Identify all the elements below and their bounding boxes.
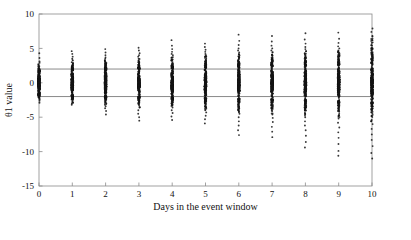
- data-point: [372, 28, 374, 30]
- data-point: [337, 102, 339, 104]
- data-point: [72, 77, 74, 79]
- data-point: [205, 55, 207, 57]
- data-point: [370, 120, 372, 122]
- data-point: [337, 107, 339, 109]
- data-point: [305, 129, 307, 131]
- data-point: [139, 106, 141, 108]
- data-point: [238, 98, 240, 100]
- data-point: [304, 39, 306, 41]
- data-point: [205, 111, 207, 113]
- data-point: [272, 117, 274, 119]
- data-point: [304, 58, 306, 60]
- data-point: [171, 45, 173, 47]
- data-point: [304, 116, 306, 118]
- data-point: [137, 113, 139, 115]
- data-point: [305, 95, 307, 97]
- data-point: [204, 46, 206, 48]
- data-point: [204, 109, 206, 111]
- scatter-column: [304, 32, 308, 148]
- data-point: [337, 122, 339, 124]
- data-point: [105, 80, 107, 82]
- data-point: [304, 46, 306, 48]
- data-point: [370, 31, 372, 33]
- x-tick-label: 9: [336, 189, 341, 199]
- x-tick-label: 6: [237, 189, 242, 199]
- data-point: [171, 82, 173, 84]
- data-point: [138, 87, 140, 89]
- data-point: [271, 74, 273, 76]
- data-point: [338, 82, 340, 84]
- scatter-column: [170, 39, 174, 121]
- data-point: [338, 143, 340, 145]
- data-point: [371, 103, 373, 105]
- data-point: [337, 74, 339, 76]
- data-point: [339, 61, 341, 63]
- data-point: [271, 65, 273, 67]
- data-point: [205, 71, 207, 73]
- data-point: [271, 136, 273, 138]
- data-point: [238, 34, 240, 36]
- data-point: [137, 56, 139, 58]
- y-tick-label: -10: [22, 147, 34, 157]
- data-point: [204, 66, 206, 68]
- data-point: [138, 64, 140, 66]
- data-point: [105, 75, 107, 77]
- data-point: [205, 115, 207, 117]
- data-point: [104, 48, 106, 50]
- data-point: [237, 105, 239, 107]
- data-point: [271, 94, 273, 96]
- data-point: [139, 93, 141, 95]
- data-point: [138, 102, 140, 104]
- data-point: [38, 78, 40, 80]
- data-point: [371, 104, 373, 106]
- data-point: [204, 51, 206, 53]
- data-point: [39, 100, 41, 102]
- data-point: [370, 152, 372, 154]
- data-point: [305, 110, 307, 112]
- data-point: [204, 84, 206, 86]
- data-point: [71, 90, 73, 92]
- data-point: [338, 47, 340, 49]
- data-point: [271, 126, 273, 128]
- y-tick-label: -5: [27, 112, 35, 122]
- data-point: [337, 155, 339, 157]
- data-point: [272, 51, 274, 53]
- data-point: [371, 59, 373, 61]
- data-point: [205, 49, 207, 51]
- data-point: [338, 137, 340, 139]
- data-point: [237, 88, 239, 90]
- data-point: [304, 101, 306, 103]
- data-point: [239, 93, 241, 95]
- data-point: [39, 102, 41, 104]
- scatter-column: [204, 43, 208, 125]
- data-point: [338, 106, 340, 108]
- y-tick-label: 5: [30, 44, 35, 54]
- data-point: [371, 158, 373, 160]
- data-point: [304, 93, 306, 95]
- data-point: [104, 95, 106, 97]
- data-point: [72, 62, 74, 64]
- data-point: [270, 87, 272, 89]
- data-point: [338, 115, 340, 117]
- data-point: [272, 104, 274, 106]
- data-point: [371, 128, 373, 130]
- data-point: [172, 97, 174, 99]
- data-point: [105, 105, 107, 107]
- data-point: [139, 78, 141, 80]
- data-point: [105, 102, 107, 104]
- data-point: [337, 32, 339, 34]
- data-point: [139, 97, 141, 99]
- data-point: [371, 88, 373, 90]
- x-tick-label: 5: [203, 189, 208, 199]
- data-point: [238, 77, 240, 79]
- data-point: [172, 99, 174, 101]
- data-point: [38, 65, 40, 67]
- data-point: [304, 111, 306, 113]
- data-point: [39, 98, 41, 100]
- data-point: [337, 76, 339, 78]
- data-point: [138, 47, 140, 49]
- data-point: [171, 51, 173, 53]
- data-point: [370, 44, 372, 46]
- data-point: [304, 71, 306, 73]
- data-point: [305, 61, 307, 63]
